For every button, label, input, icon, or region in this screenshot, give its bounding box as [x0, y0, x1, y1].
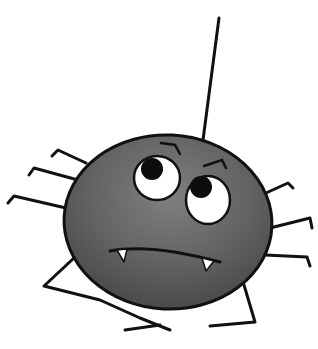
right-eye — [186, 176, 230, 224]
left-eye — [134, 156, 180, 200]
spider-svg — [0, 0, 318, 349]
spider-illustration — [0, 0, 318, 349]
silk-thread — [203, 18, 219, 140]
